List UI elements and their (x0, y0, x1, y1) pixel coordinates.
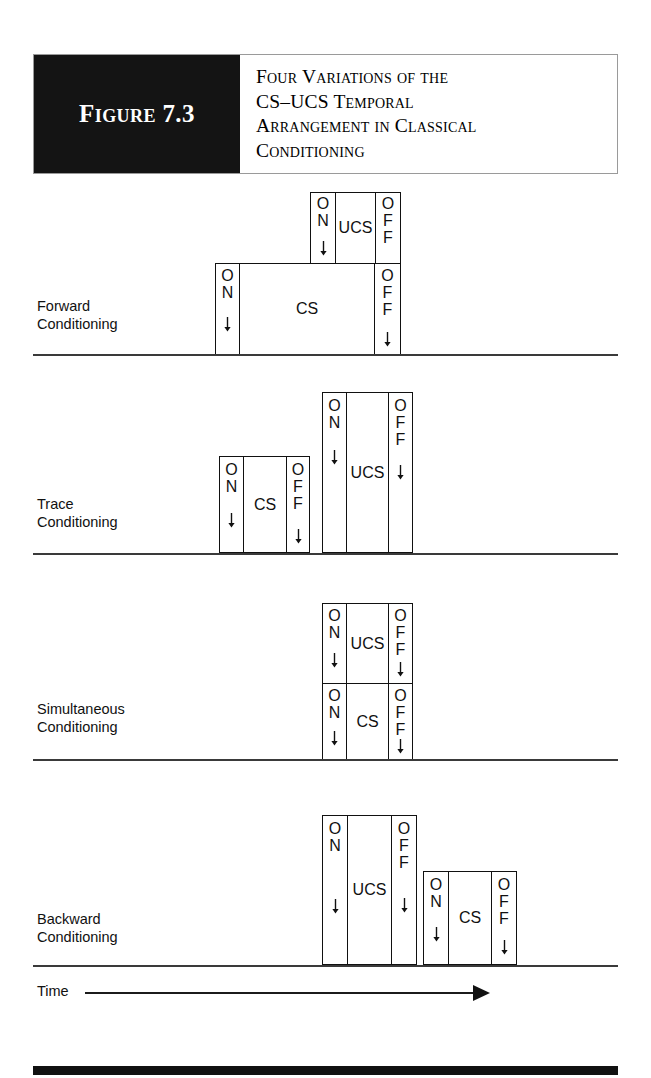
simultaneous-ucs-off-arrow-icon (396, 662, 405, 677)
figure-number-badge: Figure 7.3 (34, 55, 240, 173)
forward-ucs-stimulus-label: UCS (339, 219, 373, 237)
right-arrow-icon (473, 985, 490, 1001)
forward-ucs-on-column: ON (311, 193, 336, 263)
trace-cs-on-column: ON (220, 457, 244, 552)
forward-cs-on-label: ON (221, 267, 233, 301)
backward-cs-on-column: ON (424, 872, 449, 964)
forward-cs-off-arrow-icon (383, 332, 392, 347)
trace-cs-on-label: ON (225, 461, 237, 495)
forward-cs-on-arrow-icon (223, 317, 232, 332)
forward-cs-off-label: OFF (381, 267, 393, 318)
simultaneous-cs-off-arrow-icon (396, 739, 405, 754)
backward-ucs-on-arrow-icon (331, 899, 340, 914)
forward-cs-on-column: ON (216, 264, 240, 354)
trace-cs-off-arrow-icon (294, 529, 303, 544)
panel-label-backward-line-1: Backward (37, 911, 118, 929)
simultaneous-ucs-stimulus-label: UCS (351, 635, 385, 653)
simultaneous-ucs-on-arrow-icon (330, 653, 339, 668)
backward-ucs-on-label: ON (329, 820, 341, 854)
panel-label-simultaneous-line-1: Simultaneous (37, 701, 125, 719)
backward-cs-off-column: OFF (491, 872, 516, 964)
simultaneous-cs-off-label: OFF (394, 687, 406, 738)
simultaneous-cs-on-label: ON (328, 687, 340, 721)
panel-label-trace-line-2: Conditioning (37, 514, 118, 532)
backward-ucs-label-cell: UCS (348, 816, 391, 964)
trace-ucs-box: ON UCS OFF (322, 392, 413, 553)
forward-cs-stimulus-label: CS (296, 300, 318, 318)
trace-ucs-label-cell: UCS (347, 393, 388, 552)
backward-cs-off-label: OFF (498, 876, 510, 927)
trace-ucs-stimulus-label: UCS (351, 464, 385, 482)
trace-ucs-on-label: ON (328, 397, 340, 431)
trace-cs-label-cell: CS (244, 457, 286, 552)
panel-label-trace-line-1: Trace (37, 496, 118, 514)
panel-label-backward: Backward Conditioning (37, 911, 118, 946)
backward-cs-label-cell: CS (449, 872, 491, 964)
backward-cs-on-label: ON (430, 876, 442, 910)
trace-ucs-off-label: OFF (394, 397, 406, 448)
time-axis-line (85, 992, 475, 994)
forward-cs-label-cell: CS (240, 264, 374, 354)
simultaneous-cs-label-cell: CS (347, 684, 388, 759)
trace-ucs-on-column: ON (323, 393, 347, 552)
simultaneous-ucs-on-column: ON (323, 604, 347, 683)
figure-title: Four Variations of the CS–UCS Temporal A… (256, 65, 607, 163)
trace-cs-on-arrow-icon (227, 513, 236, 528)
backward-time-baseline (33, 965, 618, 967)
simultaneous-cs-on-column: ON (323, 684, 347, 759)
simultaneous-cs-box: ON CS OFF (322, 683, 413, 760)
forward-ucs-on-arrow-icon (319, 241, 328, 256)
trace-cs-box: ON CS OFF (219, 456, 310, 553)
trace-cs-stimulus-label: CS (254, 496, 276, 514)
trace-ucs-off-column: OFF (388, 393, 412, 552)
panel-label-simultaneous-line-2: Conditioning (37, 719, 125, 737)
forward-cs-box: ON CS OFF (215, 263, 401, 355)
forward-ucs-off-label: OFF (382, 195, 394, 246)
simultaneous-ucs-on-label: ON (328, 607, 340, 641)
panel-label-forward-line-1: Forward (37, 298, 118, 316)
forward-ucs-box: ON UCS OFF (310, 192, 401, 264)
simultaneous-ucs-off-column: OFF (388, 604, 412, 683)
trace-ucs-on-arrow-icon (330, 450, 339, 465)
time-axis: Time (37, 983, 507, 1007)
backward-ucs-on-column: ON (323, 816, 348, 964)
simultaneous-ucs-label-cell: UCS (347, 604, 388, 683)
figure-7-3: Figure 7.3 Four Variations of the CS–UCS… (0, 0, 651, 1078)
backward-cs-on-arrow-icon (432, 927, 441, 942)
figure-title-line-2: CS–UCS Temporal (256, 90, 607, 115)
panel-label-forward: Forward Conditioning (37, 298, 118, 333)
backward-cs-stimulus-label: CS (459, 909, 481, 927)
backward-ucs-box: ON UCS OFF (322, 815, 417, 965)
simultaneous-cs-stimulus-label: CS (356, 713, 378, 731)
backward-cs-off-arrow-icon (500, 940, 509, 955)
backward-ucs-off-label: OFF (398, 820, 410, 871)
time-axis-label: Time (37, 983, 69, 999)
backward-ucs-off-arrow-icon (400, 898, 409, 913)
figure-title-line-4: Conditioning (256, 139, 607, 164)
simultaneous-cs-on-arrow-icon (330, 731, 339, 746)
forward-cs-off-column: OFF (374, 264, 400, 354)
panel-label-simultaneous: Simultaneous Conditioning (37, 701, 125, 736)
figure-number-label: Figure 7.3 (79, 100, 195, 128)
trace-cs-off-column: OFF (286, 457, 309, 552)
trace-cs-off-label: OFF (292, 461, 304, 512)
figure-title-line-3: Arrangement in Classical (256, 114, 607, 139)
forward-ucs-off-column: OFF (375, 193, 400, 263)
backward-ucs-stimulus-label: UCS (353, 881, 387, 899)
panel-label-forward-line-2: Conditioning (37, 316, 118, 334)
forward-ucs-on-label: ON (317, 195, 329, 229)
figure-title-line-1: Four Variations of the (256, 65, 607, 90)
simultaneous-time-baseline (33, 759, 618, 761)
footer-rule (33, 1066, 618, 1075)
backward-ucs-off-column: OFF (391, 816, 416, 964)
backward-cs-box: ON CS OFF (423, 871, 517, 965)
panel-label-trace: Trace Conditioning (37, 496, 118, 531)
trace-time-baseline (33, 553, 618, 555)
figure-header: Figure 7.3 Four Variations of the CS–UCS… (33, 54, 618, 174)
forward-time-baseline (33, 354, 618, 356)
trace-ucs-off-arrow-icon (396, 465, 405, 480)
forward-ucs-label-cell: UCS (336, 193, 375, 263)
simultaneous-ucs-off-label: OFF (394, 607, 406, 658)
simultaneous-ucs-box: ON UCS OFF (322, 603, 413, 684)
simultaneous-cs-off-column: OFF (388, 684, 412, 759)
